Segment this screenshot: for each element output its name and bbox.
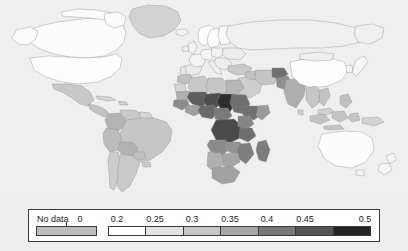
legend-no-data-swatch <box>36 226 97 236</box>
legend-band-4 <box>259 227 296 235</box>
legend-band-3 <box>221 227 258 235</box>
country-korea <box>346 65 353 73</box>
legend-tick-label-5: 0.4 <box>261 214 274 224</box>
legend-tick-label-4: 0.35 <box>221 214 239 224</box>
legend-tick-label-3: 0.3 <box>186 214 199 224</box>
country-tasmania <box>356 170 364 176</box>
country-uruguay <box>142 162 151 167</box>
legend-tick-label-6: 0.45 <box>296 214 314 224</box>
country-indonesia-java <box>324 125 344 130</box>
legend-band-1 <box>146 227 183 235</box>
legend-band-2 <box>184 227 221 235</box>
legend-tick-label-2: 0.25 <box>146 214 164 224</box>
legend-tick-label-0: 0 <box>77 214 82 224</box>
legend-tick-label-7: 0.5 <box>359 214 372 224</box>
country-western-sahara <box>174 84 186 92</box>
world-choropleth-map <box>0 0 408 198</box>
legend-no-data-label: No data <box>37 214 69 224</box>
country-ireland <box>182 46 189 52</box>
country-portugal <box>180 67 186 75</box>
legend-band-5 <box>296 227 333 235</box>
legend-tick-mark-nodata <box>66 222 67 226</box>
legend-tick-label-1: 0.2 <box>111 214 124 224</box>
legend-band-6 <box>334 227 370 235</box>
legend-band-0 <box>109 227 146 235</box>
map-svg <box>0 0 408 198</box>
country-mongolia <box>300 52 334 61</box>
figure-container: No data 0 0.2 0.25 0.3 0.35 0.4 0.45 0.5 <box>0 0 408 251</box>
country-sri-lanka <box>298 110 303 115</box>
legend-color-scale <box>108 226 371 236</box>
legend: No data 0 0.2 0.25 0.3 0.35 0.4 0.45 0.5 <box>28 209 380 242</box>
